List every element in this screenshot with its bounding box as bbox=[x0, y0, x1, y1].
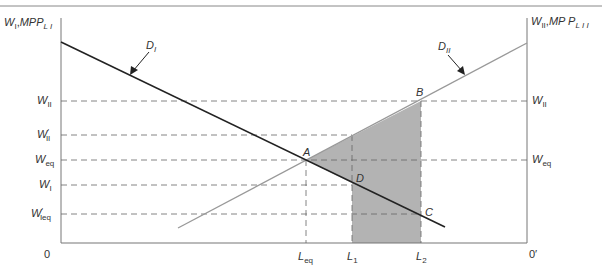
labor-market-diagram: DI DII WI,MPPL I WII,MP PL I I WII W′II … bbox=[0, 0, 602, 269]
left-label-w-eq: Weq bbox=[35, 153, 54, 168]
horizontal-guides bbox=[61, 101, 527, 214]
point-a: A bbox=[302, 146, 310, 158]
origin-left: 0 bbox=[44, 248, 50, 260]
arrow-d-ii bbox=[448, 55, 465, 75]
left-label-w-i: WI bbox=[39, 178, 52, 193]
left-axis-title: WI,MPPL I bbox=[4, 16, 53, 31]
origin-right: 0′ bbox=[529, 248, 537, 260]
right-axis-title: WII,MP PL I I bbox=[531, 15, 589, 30]
label-d-i: DI bbox=[146, 39, 157, 54]
point-c: C bbox=[425, 206, 433, 218]
left-label-w-ii: WII bbox=[37, 94, 52, 109]
point-d: D bbox=[356, 172, 364, 184]
x-label-l1: L1 bbox=[347, 250, 358, 265]
label-d-ii: DII bbox=[438, 40, 451, 55]
point-b: B bbox=[416, 86, 423, 98]
right-label-w-ii: WII bbox=[532, 94, 547, 109]
left-label-w-ii-prime: W′II bbox=[37, 127, 50, 143]
left-label-w-ieq-prime: W′Ieq bbox=[31, 206, 51, 222]
x-label-l-eq: Leq bbox=[298, 250, 313, 265]
arrow-d-i bbox=[130, 52, 149, 75]
right-label-w-eq: Weq bbox=[532, 153, 551, 168]
x-label-l2: L2 bbox=[416, 250, 427, 265]
